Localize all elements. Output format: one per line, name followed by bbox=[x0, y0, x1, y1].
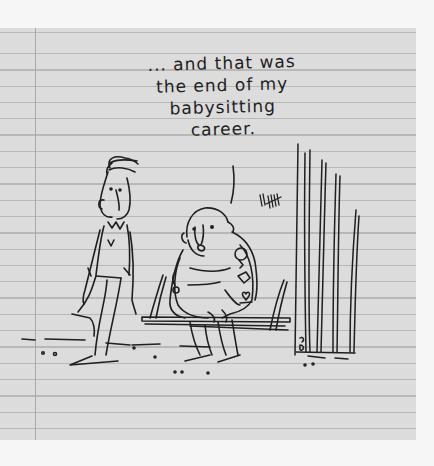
bald-tattooed-man bbox=[170, 208, 257, 362]
standing-man bbox=[70, 157, 138, 365]
jail-bars bbox=[295, 144, 359, 359]
cartoon-drawing bbox=[0, 0, 434, 466]
speech-pointer-line bbox=[231, 166, 234, 203]
tally-marks bbox=[260, 194, 281, 208]
ground-lines bbox=[22, 339, 314, 374]
